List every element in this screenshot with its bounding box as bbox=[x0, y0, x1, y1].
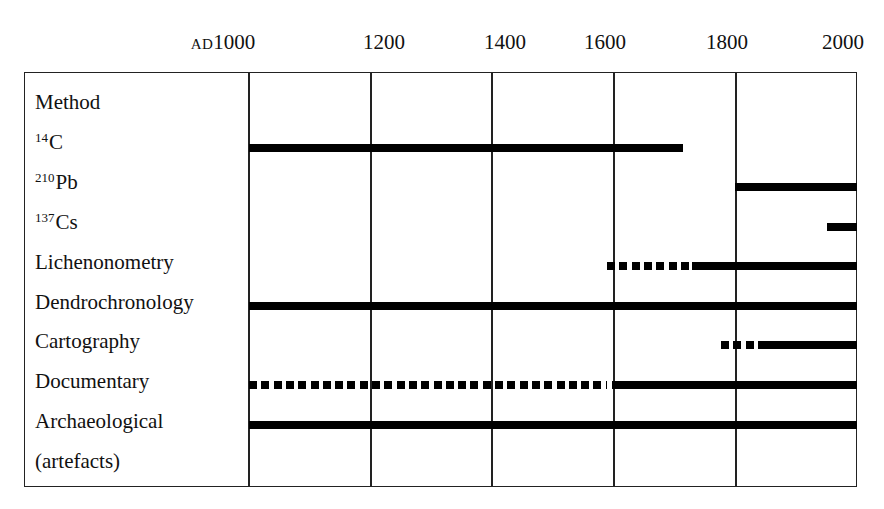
tick-label-1800: 1800 bbox=[706, 30, 748, 55]
bar-documentary-dotted bbox=[249, 381, 607, 389]
row-label-lichenometry: Lichenonometry bbox=[35, 250, 174, 275]
bar-lichenometry-solid bbox=[692, 262, 857, 270]
row-label-documentary: Documentary bbox=[35, 369, 149, 394]
bar-cartography-dotted bbox=[721, 341, 754, 349]
bar-cs137 bbox=[827, 223, 857, 231]
bar-documentary-solid bbox=[612, 381, 857, 389]
bar-cartography-solid bbox=[758, 341, 857, 349]
row-label-pb210: 210Pb bbox=[35, 170, 78, 195]
bar-c14 bbox=[249, 144, 683, 152]
column-header-method: Method bbox=[35, 90, 100, 115]
tick-label-1400: 1400 bbox=[484, 30, 526, 55]
row-label-dendrochronology: Dendrochronology bbox=[35, 290, 194, 315]
bar-archaeological bbox=[249, 421, 857, 429]
tick-label-2000: 2000 bbox=[822, 30, 864, 55]
bar-pb210 bbox=[735, 183, 857, 191]
bar-lichenometry-dotted bbox=[607, 262, 689, 270]
tick-label-1200: 1200 bbox=[363, 30, 405, 55]
tick-label-1600: 1600 bbox=[584, 30, 626, 55]
ad-prefix: AD bbox=[191, 36, 214, 52]
row-label-cartography: Cartography bbox=[35, 329, 140, 354]
row-label-archaeological-line2: (artefacts) bbox=[35, 449, 120, 474]
row-label-c14: 14C bbox=[35, 130, 63, 155]
row-label-cs137: 137Cs bbox=[35, 210, 78, 235]
bar-dendrochronology bbox=[249, 302, 857, 310]
tick-label-1000: AD1000 bbox=[191, 30, 256, 55]
row-label-archaeological: Archaeological bbox=[35, 409, 163, 434]
